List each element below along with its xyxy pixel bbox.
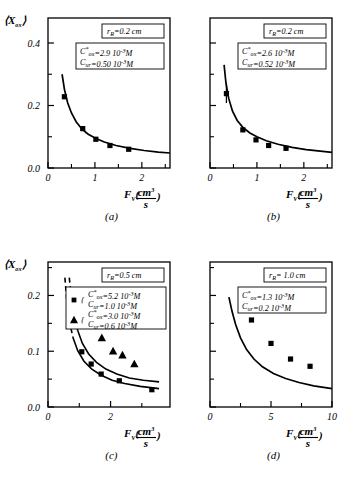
y-axis-ticks: 0.00.10.2: [28, 268, 55, 413]
svg-text:): ): [156, 429, 161, 442]
panel-caption: (c): [105, 449, 118, 462]
radius-annotation-box: rR= 1.0 cm: [264, 268, 326, 282]
data-point-square: [79, 349, 84, 354]
x-tick-label: 2: [139, 172, 144, 183]
svg-text:): ): [318, 429, 323, 442]
panel-a: 0.00.20.4012⟨Xox⟩FV(cm3s)(a)rR=0.2 cmC*o…: [0, 0, 178, 240]
data-series-measured: [224, 84, 289, 151]
x-axis-title: FV(cm3s): [123, 425, 161, 450]
x-tick-label: 0: [46, 172, 51, 183]
y-tick-label: 0.0: [28, 402, 41, 413]
data-point-square: [307, 364, 312, 369]
x-axis-title: FV(cm3s): [285, 425, 323, 450]
y-axis-title: ⟨Xox⟩: [4, 258, 27, 272]
svg-text:): ): [318, 190, 323, 203]
data-point-square: [80, 126, 85, 131]
data-point-square: [89, 361, 94, 366]
data-point-square: [268, 341, 273, 346]
panel-b-canvas: 012FV(cm3s)(b)rR=0.2 cmC*ox=2.6 10-3MCur…: [178, 0, 356, 240]
legend-marker-square: [72, 298, 77, 303]
radius-annotation-box: rR=0.2 cm: [102, 24, 164, 38]
svg-text:): ): [156, 190, 161, 203]
data-point-square: [253, 137, 258, 142]
data-point-square: [117, 378, 122, 383]
data-point-square: [266, 143, 271, 148]
x-axis-ticks: 02: [46, 401, 142, 422]
svg-text:cm3: cm3: [138, 425, 155, 437]
panel-caption: (d): [267, 449, 280, 462]
data-point-triangle: [130, 360, 138, 368]
panel-a-canvas: 0.00.20.4012⟨Xox⟩FV(cm3s)(a)rR=0.2 cmC*o…: [0, 0, 178, 240]
svg-text:s: s: [305, 437, 310, 449]
svg-text:s: s: [143, 437, 148, 449]
y-tick-label: 0.2: [28, 100, 41, 111]
x-tick-label: 10: [327, 411, 337, 422]
x-axis-ticks: 012: [208, 162, 328, 183]
data-point-square: [99, 371, 104, 376]
data-point-triangle: [109, 347, 117, 355]
data-series-measured: [62, 94, 131, 152]
panel-d-canvas: 0510FV(cm3s)(d)rR= 1.0 cmC*ox=1.3 10-3MC…: [178, 240, 356, 481]
radius-annotation-box: rR=0.5 cm: [102, 268, 164, 282]
x-tick-label: 0: [208, 172, 213, 183]
data-point-square: [249, 317, 254, 322]
radius-annotation-box: rR=0.2 cm: [264, 24, 326, 38]
svg-text:cm3: cm3: [300, 425, 317, 437]
axes-frame: [48, 262, 170, 407]
panel-d: 0510FV(cm3s)(d)rR= 1.0 cmC*ox=1.3 10-3MC…: [178, 240, 356, 481]
data-point-square: [288, 356, 293, 361]
panel-caption: (b): [267, 210, 280, 223]
data-point-square: [149, 387, 154, 392]
svg-text:s: s: [143, 198, 148, 210]
panel-b: 012FV(cm3s)(b)rR=0.2 cmC*ox=2.6 10-3MCur…: [178, 0, 356, 240]
x-tick-label: 2: [108, 411, 113, 422]
y-axis-title: ⟨Xox⟩: [4, 14, 27, 28]
data-point-square: [224, 91, 229, 96]
y-axis-ticks: [210, 268, 216, 407]
data-point-square: [283, 146, 288, 151]
concentration-annotation-box: C*ox=2.9 10-3MCur=0.50 10-3M: [76, 43, 164, 69]
model-curve: [78, 331, 159, 382]
x-axis-title: FV(cm3s): [285, 186, 323, 211]
x-tick-label: 2: [301, 172, 306, 183]
x-axis-title: FV(cm3s): [123, 186, 161, 211]
x-tick-label: 0: [208, 411, 213, 422]
data-point-square: [240, 127, 245, 132]
panel-c-canvas: 0.00.10.202⟨Xox⟩FV(cm3s)(c)rR=0.5 cm{C*o…: [0, 240, 178, 481]
data-point-square: [62, 94, 67, 99]
x-tick-label: 0: [46, 411, 51, 422]
x-axis-ticks: 0510: [208, 401, 338, 422]
panel-c: 0.00.10.202⟨Xox⟩FV(cm3s)(c)rR=0.5 cm{C*o…: [0, 240, 178, 481]
data-point-triangle: [98, 333, 106, 341]
x-axis-ticks: 012: [46, 162, 166, 183]
x-tick-label: 5: [269, 411, 274, 422]
svg-text:cm3: cm3: [300, 186, 317, 198]
y-tick-label: 0.0: [28, 163, 41, 174]
x-tick-label: 1: [254, 172, 259, 183]
legend-box: {C*ox=5.2 10-3MCur=1.0 10-3M{C*ox=3.0 10…: [66, 287, 166, 331]
y-axis-ticks: [210, 43, 216, 168]
model-curve: [224, 65, 332, 153]
svg-text:s: s: [305, 198, 310, 210]
panel-caption: (a): [105, 210, 118, 223]
figure-root: 0.00.20.4012⟨Xox⟩FV(cm3s)(a)rR=0.2 cmC*o…: [0, 0, 356, 481]
y-tick-label: 0.1: [28, 346, 41, 357]
data-point-square: [126, 147, 131, 152]
x-tick-label: 1: [92, 172, 97, 183]
svg-text:cm3: cm3: [138, 186, 155, 198]
y-tick-label: 0.2: [28, 290, 41, 301]
model-curve: [62, 74, 170, 153]
data-point-square: [107, 143, 112, 148]
data-point-triangle: [118, 351, 126, 359]
y-tick-label: 0.4: [28, 38, 41, 49]
concentration-annotation-box: C*ox=2.6 10-3MCur=0.52 10-3M: [238, 43, 326, 69]
data-point-square: [93, 137, 98, 142]
data-series-measured: [249, 317, 313, 368]
concentration-annotation-box: C*ox=1.3 10-3MCur=0.2 10-3M: [238, 287, 326, 313]
y-axis-ticks: 0.00.20.4: [28, 38, 55, 174]
